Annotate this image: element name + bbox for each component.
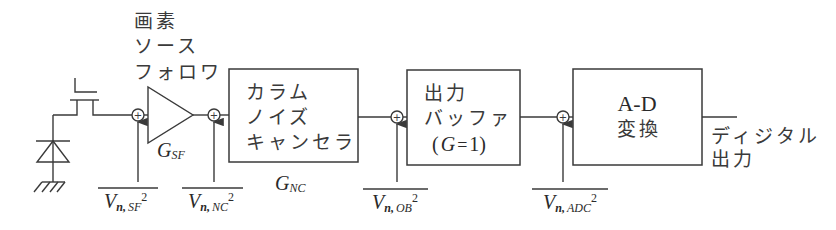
source-follower-label: 画素 ソース フォロワ: [134, 10, 222, 83]
summing-node-1: +: [132, 109, 144, 182]
ob-gain-note: (G=1): [432, 133, 486, 156]
photodiode-icon: [36, 115, 70, 182]
sf-label-line-3: フォロワ: [134, 61, 222, 83]
ob-line-2: バッファ: [424, 107, 512, 129]
summing-node-2: +: [208, 109, 220, 182]
column-noise-canceller-block: カラム ノイズ キャンセラ: [229, 69, 358, 162]
cnc-line-3: キャンセラ: [246, 131, 356, 153]
noise-label-ob: Vn,OB2: [363, 189, 428, 215]
digital-output-label: ディジタル 出力: [711, 125, 820, 170]
adc-block: A-D 変換: [573, 69, 702, 165]
summing-node-4: +: [557, 111, 569, 182]
plus-icon: +: [559, 112, 567, 123]
summing-node-3: +: [391, 111, 403, 182]
plus-icon: +: [210, 110, 218, 121]
svg-text:Vn,OB2: Vn,OB2: [372, 191, 418, 215]
transfer-transistor-icon: [53, 78, 132, 115]
source-follower-amplifier-icon: [148, 87, 193, 143]
ground-icon: [34, 182, 65, 192]
adc-line-1: A-D: [617, 91, 656, 116]
plus-icon: +: [134, 110, 142, 121]
cnc-line-1: カラム: [246, 81, 311, 103]
svg-text:Vn,SF2: Vn,SF2: [104, 190, 147, 214]
noise-label-adc: Vn,ADC2: [532, 189, 608, 215]
gain-nc-label: GNC: [275, 172, 306, 195]
svg-text:Vn,NC2: Vn,NC2: [188, 190, 234, 214]
gain-sf-label: GSF: [157, 139, 185, 162]
plus-icon: +: [393, 112, 401, 123]
gate-terminal: [75, 78, 97, 92]
source-wire: [93, 100, 132, 115]
sf-label-line-1: 画素: [134, 10, 178, 32]
signal-chain-diagram: 画素 ソース フォロワ + GSF +: [0, 0, 836, 230]
ob-line-1: 出力: [424, 82, 468, 104]
noise-label-nc: Vn,NC2: [182, 188, 243, 214]
adc-line-2: 変換: [617, 118, 661, 140]
svg-text:Vn,ADC2: Vn,ADC2: [543, 191, 597, 215]
output-buffer-block: 出力 バッファ (G=1): [407, 70, 520, 165]
cnc-line-2: ノイズ: [246, 106, 311, 128]
sf-label-line-2: ソース: [134, 35, 199, 57]
noise-label-sf: Vn,SF2: [98, 188, 158, 214]
digital-output-line-2: 出力: [711, 148, 755, 170]
drain-wire: [53, 100, 77, 115]
digital-output-line-1: ディジタル: [711, 125, 820, 147]
